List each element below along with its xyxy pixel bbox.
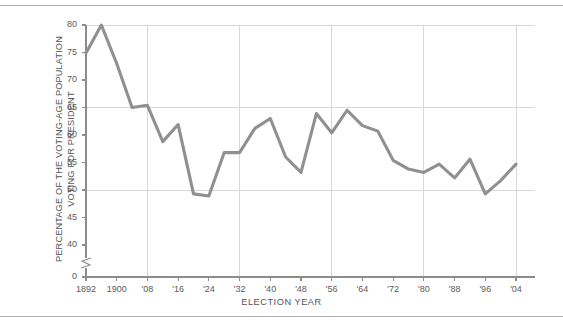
y-axis-title: PERCENTAGE OF THE VOTING-AGE POPULATION … xyxy=(18,18,54,280)
turnout-line-series xyxy=(86,25,516,196)
y-axis-title-line2: VOTING FOR PRESIDENT xyxy=(66,91,78,206)
axes-group xyxy=(86,25,535,277)
x-tick-label-2004: '04 xyxy=(496,284,536,294)
gridlines-group xyxy=(86,25,535,277)
chart-figure: 8075706560555045400 18921900'08'16'24'32… xyxy=(0,0,563,334)
y-axis-title-line1: PERCENTAGE OF THE VOTING-AGE POPULATION xyxy=(54,36,66,262)
x-axis-title: ELECTION YEAR xyxy=(0,297,563,307)
